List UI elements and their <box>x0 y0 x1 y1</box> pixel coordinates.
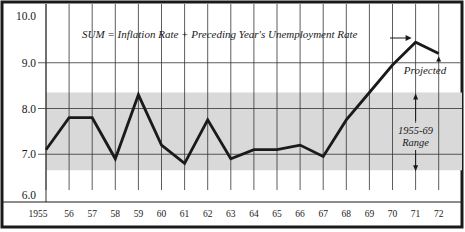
chart-frame: 6.07.08.09.010.0 19555657585960616263646… <box>0 0 465 232</box>
x-tick-label: 63 <box>226 209 236 219</box>
range-label-line1: 1955-69 <box>398 125 434 136</box>
y-tick-label: 8.0 <box>22 103 37 115</box>
x-tick-label: 67 <box>318 209 328 219</box>
x-tick-label: 72 <box>434 209 444 219</box>
line-chart: 6.07.08.09.010.0 19555657585960616263646… <box>0 0 465 232</box>
chart-title: SUM = Inflation Rate + Preceding Year's … <box>82 28 358 40</box>
x-tick-label: 66 <box>295 209 305 219</box>
x-tick-label: 64 <box>249 209 259 219</box>
x-tick-label: 70 <box>388 209 398 219</box>
x-tick-label: 58 <box>111 209 121 219</box>
x-tick-label: 61 <box>180 209 190 219</box>
y-tick-label: 6.0 <box>22 189 37 201</box>
x-tick-label: 59 <box>134 209 144 219</box>
x-tick-label: 69 <box>365 209 375 219</box>
y-tick-label: 10.0 <box>16 10 36 22</box>
x-tick-label: 56 <box>64 209 74 219</box>
projected-label: Projected <box>403 64 447 76</box>
x-tick-label: 65 <box>272 209 282 219</box>
x-tick-label: 68 <box>342 209 352 219</box>
x-tick-label: 60 <box>157 209 167 219</box>
range-label-line2: Range <box>401 137 429 148</box>
y-tick-label: 7.0 <box>22 148 37 160</box>
x-tick-label: 62 <box>203 209 213 219</box>
x-tick-label: 57 <box>87 209 97 219</box>
x-tick-label: 71 <box>411 209 421 219</box>
x-tick-label: 1955 <box>29 209 48 219</box>
y-tick-label: 9.0 <box>22 57 37 69</box>
